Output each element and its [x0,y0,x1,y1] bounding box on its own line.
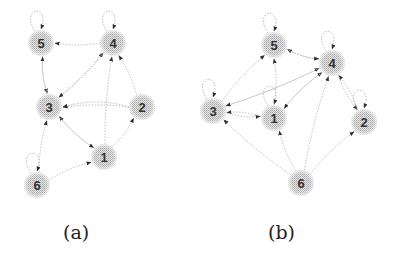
self-loop-a-6 [26,153,39,173]
panel-a-caption: (a) [63,221,89,243]
edge-b-6-to-4 [304,77,328,171]
node-label: 2 [360,115,367,130]
node-label: 6 [297,176,304,191]
edge-a-5-to-3 [42,56,47,93]
edge-b-4-to-5 [287,49,319,59]
node-a-6: 6 [24,172,50,198]
edge-a-3-to-1 [59,116,94,148]
node-b-4: 4 [319,50,345,76]
node-b-5: 5 [261,32,287,58]
self-loop-b-5 [263,13,276,33]
node-a-4: 4 [100,30,126,56]
node-b-6: 6 [288,170,314,196]
node-label: 5 [270,38,277,53]
edge-a-4-to-5 [55,43,100,45]
node-label: 4 [109,36,117,51]
node-label: 1 [100,150,107,165]
node-label: 1 [270,111,277,126]
graph-figure: 543216543126 [0,0,394,253]
self-loop-b-4 [321,31,334,51]
edge-a-1-to-2 [112,118,134,147]
edge-b-6-to-2 [310,132,354,174]
self-loop-b-1 [263,86,276,106]
edge-a-6-to-1 [49,162,91,180]
edge-a-1-to-4 [105,57,112,144]
edge-b-5-to-4 [286,49,318,59]
edge-b-6-to-1 [279,131,296,171]
node-a-2: 2 [129,94,155,120]
edge-a-4-to-3 [59,52,104,97]
node-a-3: 3 [36,94,62,120]
nodes-layer: 543216543126 [24,30,377,198]
edge-a-3-to-4 [58,53,103,98]
node-a-5: 5 [28,30,54,56]
self-loop-b-3 [202,79,215,99]
node-label: 2 [138,100,145,115]
node-label: 3 [209,104,216,119]
edge-b-1-to-4 [283,73,321,109]
edge-a-2-to-4 [119,56,137,95]
edges-layer [26,11,366,180]
panel-b-caption: (b) [268,221,295,243]
self-loop-a-5 [30,11,43,31]
node-label: 6 [33,178,40,193]
edge-a-6-to-3 [39,121,47,172]
edge-a-1-to-3 [59,116,94,148]
node-a-1: 1 [91,144,117,170]
edge-b-4-to-1 [284,72,322,108]
node-b-2: 2 [351,109,377,135]
edge-a-3-to-5 [42,57,47,94]
node-label: 4 [328,56,336,71]
node-b-3: 3 [200,98,226,124]
edge-b-3-to-4 [225,68,319,106]
node-label: 5 [37,36,44,51]
self-loop-a-4 [102,11,115,31]
node-b-1: 1 [261,105,287,131]
edge-a-2-to-3 [63,105,129,107]
node-label: 3 [45,100,52,115]
